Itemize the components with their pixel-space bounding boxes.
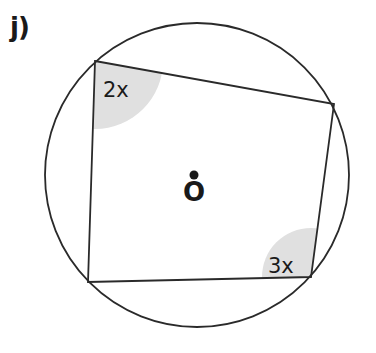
angle-label-2x: 2x [103,78,129,102]
diagram-canvas: j) 2x 3x O [0,0,376,353]
angle-label-3x: 3x [268,254,294,278]
circle-diagram: 2x 3x O [0,0,376,353]
center-label: O [183,177,205,207]
